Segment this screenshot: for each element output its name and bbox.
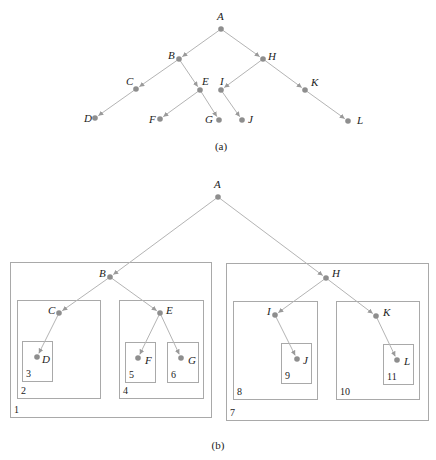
node-label-C: C	[48, 304, 56, 316]
caption: (a)	[215, 140, 228, 153]
node-A	[218, 26, 224, 32]
node-label-B: B	[168, 49, 175, 61]
edge-A-H	[221, 29, 260, 57]
node-G	[216, 117, 222, 123]
node-E	[157, 310, 163, 316]
partition-label: 1	[14, 404, 19, 415]
node-A	[215, 194, 221, 200]
partition-label: 7	[230, 407, 235, 418]
node-label-K: K	[382, 306, 391, 318]
node-G	[178, 355, 184, 361]
node-label-B: B	[99, 267, 106, 279]
node-label-J: J	[248, 113, 254, 125]
edge-E-F	[163, 90, 200, 117]
partition-label: 9	[285, 370, 290, 381]
node-label-A: A	[216, 10, 224, 22]
node-B	[176, 56, 182, 62]
partition-label: 3	[26, 368, 31, 379]
node-label-I: I	[266, 305, 272, 317]
edge-I-J	[275, 315, 295, 355]
node-J	[294, 356, 300, 362]
node-D	[92, 115, 98, 121]
edge-H-K	[263, 59, 302, 88]
node-B	[107, 274, 113, 280]
partition-label: 10	[340, 386, 350, 397]
node-L	[394, 357, 400, 363]
edge-E-G	[160, 313, 179, 354]
edge-C-D	[39, 313, 59, 353]
edge-K-L	[376, 316, 395, 356]
node-label-J: J	[303, 354, 309, 366]
edge-K-L	[305, 90, 345, 119]
node-J	[239, 117, 245, 123]
node-label-L: L	[403, 355, 410, 367]
node-label-E: E	[165, 304, 173, 316]
edge-E-F	[140, 313, 160, 354]
partition-label: 2	[21, 385, 26, 396]
node-I	[272, 312, 278, 318]
partition-label: 5	[129, 369, 134, 380]
partition-label: 11	[387, 371, 397, 382]
edge-B-E	[179, 59, 198, 87]
edge-C-D	[98, 89, 136, 116]
node-label-D: D	[41, 353, 50, 365]
caption: (b)	[212, 439, 225, 452]
node-K	[373, 313, 379, 319]
node-C	[56, 310, 62, 316]
node-H	[323, 275, 329, 281]
node-label-L: L	[356, 114, 363, 126]
partition-label: 6	[171, 369, 176, 380]
node-label-F: F	[148, 113, 156, 125]
edge-A-B	[182, 29, 221, 57]
edge-B-C	[139, 59, 179, 87]
node-D	[34, 354, 40, 360]
partition-label: 8	[237, 386, 242, 397]
edge-H-I	[224, 59, 263, 88]
node-label-H: H	[331, 267, 341, 279]
node-label-G: G	[188, 354, 196, 366]
partition-box-7	[227, 264, 429, 421]
node-label-A: A	[213, 178, 221, 190]
node-label-K: K	[310, 76, 319, 88]
node-I	[218, 87, 224, 93]
partition-box-1	[11, 263, 212, 418]
edge-I-J	[221, 90, 240, 117]
node-H	[260, 56, 266, 62]
node-label-E: E	[201, 75, 209, 87]
node-K	[302, 87, 308, 93]
node-F	[135, 355, 141, 361]
edge-B-E	[110, 277, 157, 311]
tree-b-partitioned: 1234567891011ABCDEFGHIJKL(b)	[11, 178, 429, 452]
edge-H-K	[326, 278, 373, 314]
node-label-C: C	[126, 75, 134, 87]
tree-diagram-canvas: ABCDEFGHIJKL(a) 1234567891011ABCDEFGHIJK…	[0, 0, 436, 460]
node-E	[197, 87, 203, 93]
node-label-I: I	[219, 75, 225, 87]
node-C	[133, 86, 139, 92]
edge-B-C	[62, 277, 110, 311]
node-F	[157, 116, 163, 122]
node-label-G: G	[205, 113, 213, 125]
node-label-H: H	[267, 50, 277, 62]
partition-label: 4	[123, 385, 128, 396]
tree-a: ABCDEFGHIJKL(a)	[83, 10, 363, 153]
node-label-D: D	[83, 112, 92, 124]
edge-H-I	[278, 278, 326, 313]
node-L	[345, 118, 351, 124]
node-label-F: F	[144, 354, 152, 366]
